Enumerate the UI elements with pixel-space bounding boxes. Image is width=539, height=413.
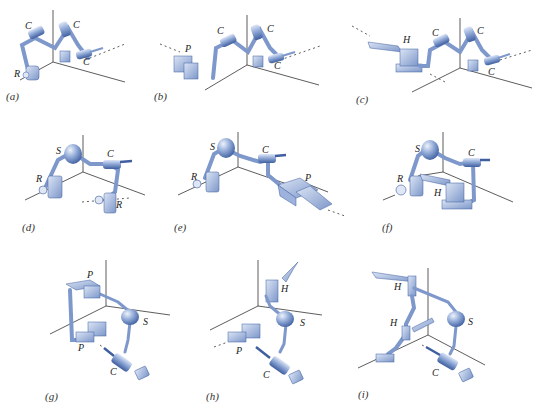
panel-e: S C R P (e) <box>170 130 350 260</box>
panel-h: H S P C (h) <box>170 260 350 413</box>
joint-label: C <box>262 145 269 155</box>
joint-label: R <box>191 172 197 182</box>
joint-label: C <box>488 67 495 77</box>
joint-label: P <box>87 270 93 280</box>
panel-caption: (c) <box>356 93 368 105</box>
panel-i: H H S C (i) <box>350 260 539 413</box>
chain-diagram-b <box>160 0 350 130</box>
joint-label: C <box>25 21 32 31</box>
chain-diagram-e <box>170 130 350 260</box>
joint-label: H <box>403 35 410 45</box>
joint-label: S <box>210 142 215 152</box>
chain-diagram-h <box>170 260 350 413</box>
joint-label: R <box>397 174 403 184</box>
joint-label: C <box>274 61 281 71</box>
joint-label: C <box>83 57 90 67</box>
joint-label: C <box>477 26 484 36</box>
panel-caption: (a) <box>6 90 19 102</box>
joint-label: C <box>110 367 117 377</box>
joint-label: H <box>390 318 397 328</box>
chain-diagram-d <box>0 130 180 260</box>
joint-label: C <box>107 149 114 159</box>
joint-label: C <box>217 26 224 36</box>
panel-caption: (h) <box>206 390 219 402</box>
panel-b: P C C C (b) <box>160 0 350 130</box>
joint-label: R <box>116 200 122 210</box>
panel-caption: (i) <box>358 388 368 400</box>
joint-label: S <box>56 146 61 156</box>
joint-label: C <box>267 24 274 34</box>
joint-label: S <box>143 317 148 327</box>
joint-label: C <box>73 20 80 30</box>
panel-a: C C C R (a) <box>0 0 180 130</box>
joint-label: H <box>434 188 441 198</box>
chain-diagram-f <box>350 130 539 260</box>
joint-label: S <box>468 317 473 327</box>
joint-label: P <box>78 343 84 353</box>
joint-label: R <box>14 69 20 79</box>
joint-label: R <box>36 174 42 184</box>
panel-caption: (g) <box>45 390 58 402</box>
chain-diagram-g <box>0 260 180 413</box>
joint-label: C <box>432 368 439 378</box>
joint-label: H <box>394 282 401 292</box>
joint-label: S <box>415 144 420 154</box>
panel-g: P S P C (g) <box>0 260 180 413</box>
chain-diagram-i <box>350 260 539 413</box>
joint-label: P <box>236 346 242 356</box>
panel-c: H C C C (c) <box>350 0 539 130</box>
panel-caption: (e) <box>174 221 186 233</box>
panel-f: S C R H (f) <box>350 130 539 260</box>
joint-label: C <box>263 370 270 380</box>
panel-d: S C R R (d) <box>0 130 180 260</box>
panel-caption: (b) <box>154 90 167 102</box>
joint-label: P <box>305 173 311 183</box>
joint-label: H <box>281 284 288 294</box>
joint-label: C <box>468 148 475 158</box>
chain-diagram-c <box>350 0 539 130</box>
joint-label: S <box>300 318 305 328</box>
panel-caption: (d) <box>22 221 35 233</box>
joint-label: P <box>185 44 191 54</box>
joint-label: C <box>432 28 439 38</box>
panel-caption: (f) <box>382 221 392 233</box>
